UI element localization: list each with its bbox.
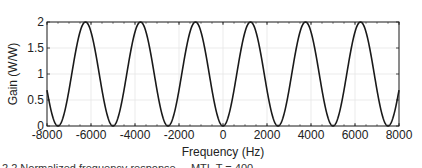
- x-tick-label: 6000: [342, 128, 369, 142]
- x-tick-label: 4000: [298, 128, 325, 142]
- x-tick-labels: -8000-6000-4000-200002000400060008000: [32, 128, 413, 142]
- chart: -8000-6000-4000-200002000400060008000 00…: [0, 0, 422, 160]
- x-tick-label: 8000: [386, 128, 413, 142]
- x-tick-label: 0: [220, 128, 227, 142]
- x-tick-label: -6000: [76, 128, 107, 142]
- y-tick-label: 2: [37, 15, 44, 29]
- y-axis-label: Gain (W/W): [6, 43, 20, 106]
- x-tick-label: -4000: [120, 128, 151, 142]
- x-tick-label: -8000: [32, 128, 63, 142]
- x-tick-label: 2000: [254, 128, 281, 142]
- y-tick-label: 1: [37, 67, 44, 81]
- y-tick-label: 0: [37, 119, 44, 133]
- x-axis-label: Frequency (Hz): [182, 145, 265, 159]
- x-tick-label: -2000: [164, 128, 195, 142]
- figure-caption: 2.2 Normalized frequency response ... MT…: [2, 162, 265, 168]
- y-tick-label: 0.5: [27, 93, 44, 107]
- y-tick-label: 1.5: [27, 41, 44, 55]
- y-tick-labels: 00.511.52: [27, 15, 44, 133]
